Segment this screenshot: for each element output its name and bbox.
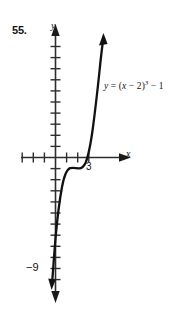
equation-equals: = (111, 81, 116, 91)
y-axis-label: y (51, 20, 55, 31)
x-axis-label: x (126, 148, 130, 159)
equation-inner-minus: − (129, 81, 134, 91)
equation-outer-constant: 1 (159, 81, 164, 91)
x-intercept-tick-label: 3 (86, 161, 92, 172)
equation-exponent: 3 (145, 79, 148, 86)
exercise-number: 55. (12, 24, 27, 36)
y-axis-tick-label-negative-nine: −9 (26, 261, 39, 273)
equation-annotation: y = (x − 2)3 − 1 (104, 79, 164, 91)
curve-down-arrow-icon (48, 279, 56, 291)
curve-up-arrow-icon (99, 33, 108, 46)
equation-outer-minus: − (151, 81, 156, 91)
y-axis-down-arrow-icon (51, 291, 59, 303)
graph-figure: 55. (0, 0, 191, 314)
equation-base-var: x (122, 81, 126, 91)
equation-lhs: y (104, 81, 108, 91)
